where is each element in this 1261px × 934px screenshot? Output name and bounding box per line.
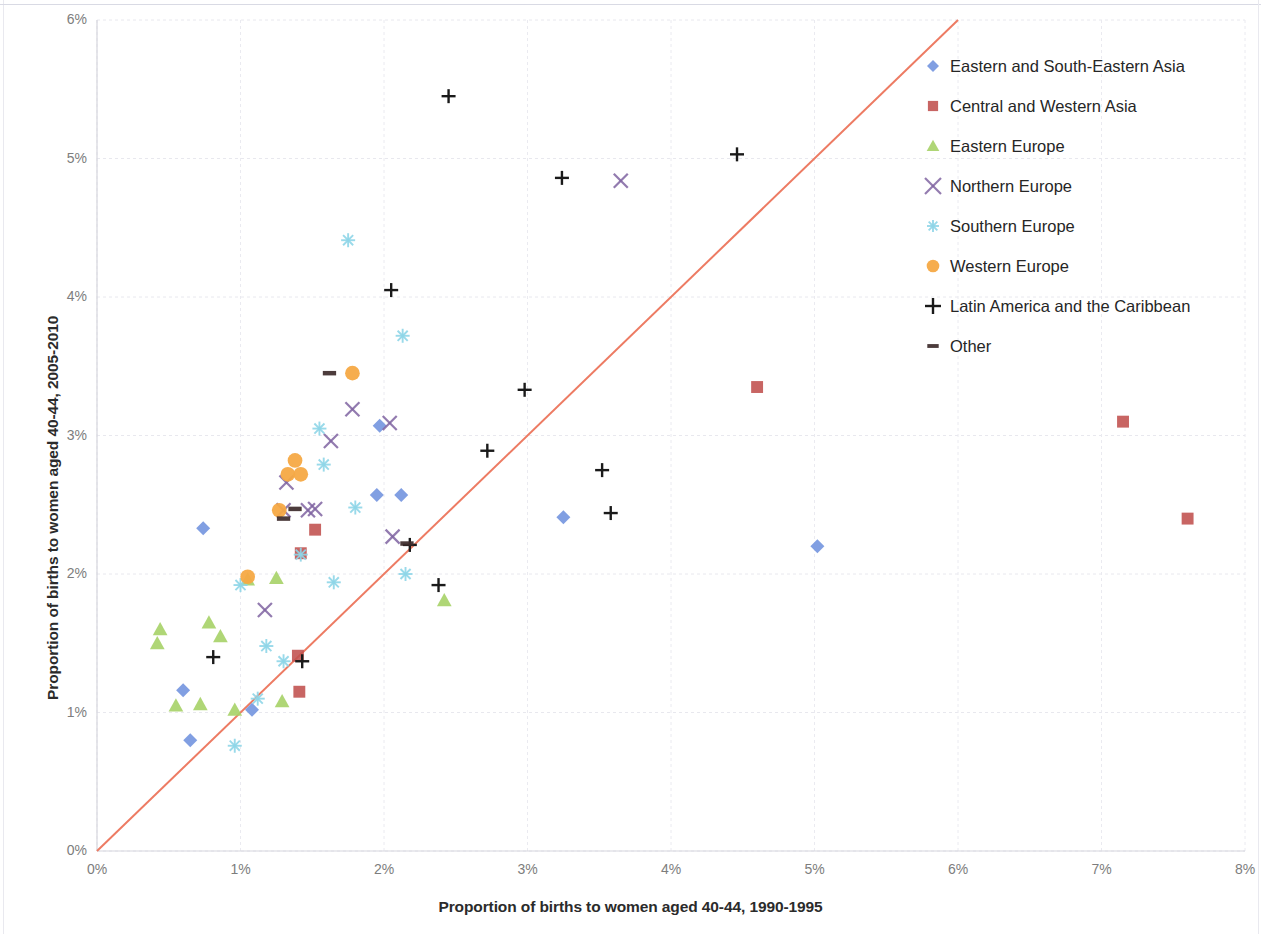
data-point [288, 453, 303, 468]
data-point [259, 639, 273, 653]
data-point [169, 698, 184, 711]
legend-item-central-and-western-asia[interactable]: Central and Western Asia [920, 86, 1260, 126]
data-point [348, 501, 362, 515]
data-point [324, 434, 338, 448]
data-point [442, 89, 456, 103]
series-central-and-western-asia [292, 381, 1194, 698]
legend-item-latin-america-and-the-caribbean[interactable]: Latin America and the Caribbean [920, 286, 1260, 326]
data-point [480, 444, 494, 458]
x-tick-label: 0% [67, 861, 127, 877]
series-northern-europe [258, 174, 628, 617]
y-tick-label: 5% [39, 150, 87, 166]
square-marker-icon [928, 101, 938, 111]
data-point [345, 366, 360, 381]
y-tick-label: 0% [39, 842, 87, 858]
legend-item-southern-europe[interactable]: Southern Europe [920, 206, 1260, 246]
triangle-marker-icon [920, 133, 946, 159]
series-southern-europe [228, 233, 413, 753]
legend-item-eastern-europe[interactable]: Eastern Europe [920, 126, 1260, 166]
y-tick-label: 4% [39, 288, 87, 304]
x-tick-label: 7% [1072, 861, 1132, 877]
data-point [288, 507, 301, 511]
data-point [213, 629, 228, 642]
data-point [386, 530, 400, 544]
series-latin-america-and-the-caribbean [206, 89, 744, 668]
dash-marker-icon [927, 344, 938, 348]
data-point [293, 467, 308, 482]
data-point [327, 575, 341, 589]
x-marker-icon [920, 173, 946, 199]
legend-item-eastern-and-south-eastern-asia[interactable]: Eastern and South-Eastern Asia [920, 46, 1260, 86]
data-point [294, 548, 308, 562]
x-tick-label: 3% [498, 861, 558, 877]
dash-marker-icon [920, 333, 946, 359]
data-point [595, 463, 609, 477]
diamond-marker-icon [927, 60, 939, 72]
data-point [518, 383, 532, 397]
data-point [196, 521, 210, 535]
data-point [384, 283, 398, 297]
data-point [272, 503, 287, 518]
chart-legend: Eastern and South-Eastern AsiaCentral an… [920, 46, 1260, 366]
data-point [277, 654, 291, 668]
legend-item-label: Eastern and South-Eastern Asia [950, 57, 1185, 76]
data-point [251, 692, 265, 706]
legend-item-label: Southern Europe [950, 217, 1075, 236]
square-marker-icon [920, 93, 946, 119]
diamond-marker-icon [920, 53, 946, 79]
data-point [153, 622, 168, 635]
data-point [312, 422, 326, 436]
data-point [240, 569, 255, 584]
x-tick-label: 6% [928, 861, 988, 877]
legend-item-label: Western Europe [950, 257, 1069, 276]
data-point [730, 147, 744, 161]
data-point [183, 733, 197, 747]
x-tick-label: 5% [785, 861, 845, 877]
data-point [293, 686, 305, 698]
x-axis-title: Proportion of births to women aged 40-44… [0, 898, 1261, 916]
asterisk-marker-icon [927, 220, 939, 232]
data-point [341, 233, 355, 247]
data-point [258, 603, 272, 617]
x-tick-label: 4% [641, 861, 701, 877]
data-point [228, 739, 242, 753]
legend-item-label: Northern Europe [950, 177, 1072, 196]
data-point [277, 516, 290, 520]
data-point [309, 524, 321, 536]
y-axis-title: Proportion of births to women aged 40-44… [44, 316, 62, 700]
data-point [193, 697, 208, 710]
data-point [555, 171, 569, 185]
x-marker-icon [925, 178, 941, 194]
data-point [281, 467, 296, 482]
data-point [269, 571, 284, 584]
data-point [394, 488, 408, 502]
data-point [323, 371, 336, 375]
data-point [206, 650, 220, 664]
data-point [275, 694, 290, 707]
data-point [373, 419, 387, 433]
y-tick-label: 6% [39, 11, 87, 27]
legend-item-western-europe[interactable]: Western Europe [920, 246, 1260, 286]
plus-marker-icon [925, 298, 941, 314]
data-point [437, 593, 452, 606]
scatter-chart: 0%1%2%3%4%5%6% 0%1%2%3%4%5%6%7%8% Propor… [0, 0, 1261, 934]
plus-marker-icon [920, 293, 946, 319]
legend-item-label: Central and Western Asia [950, 97, 1137, 116]
data-point [345, 402, 359, 416]
circle-marker-icon [920, 253, 946, 279]
legend-item-label: Other [950, 337, 991, 356]
reference-line [97, 20, 958, 851]
data-point [1117, 416, 1129, 428]
y-tick-label: 1% [39, 704, 87, 720]
data-point [604, 506, 618, 520]
triangle-marker-icon [927, 140, 940, 151]
legend-item-other[interactable]: Other [920, 326, 1260, 366]
data-point [432, 578, 446, 592]
data-point [202, 615, 217, 628]
circle-marker-icon [927, 260, 940, 273]
legend-item-northern-europe[interactable]: Northern Europe [920, 166, 1260, 206]
asterisk-marker-icon [920, 213, 946, 239]
data-point [227, 702, 242, 715]
legend-item-label: Latin America and the Caribbean [950, 297, 1190, 316]
data-point [751, 381, 763, 393]
